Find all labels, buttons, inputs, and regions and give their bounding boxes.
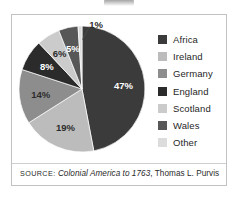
source-divider (12, 163, 226, 164)
legend-item-ireland[interactable]: Ireland (158, 48, 224, 65)
source-work-title: Colonial America to 1763 (58, 169, 150, 178)
source-author: , Thomas L. Purvis (150, 169, 219, 178)
pie-label-ireland: 19% (56, 122, 76, 133)
legend-item-scotland[interactable]: Scotland (158, 100, 224, 117)
legend-label-germany: Germany (173, 68, 213, 79)
pie-svg: 47%19%14%8%6%5%1% (16, 19, 148, 155)
source-note: SOURCE: Colonial America to 1763, Thomas… (20, 169, 226, 178)
legend-item-africa[interactable]: Africa (158, 31, 224, 48)
legend-swatch-other (158, 138, 167, 147)
legend-item-other[interactable]: Other (158, 134, 224, 151)
pie-label-england: 8% (40, 61, 54, 72)
legend-label-ireland: Ireland (173, 51, 203, 62)
legend-label-wales: Wales (173, 120, 200, 131)
pie-label-wales: 5% (66, 43, 80, 54)
legend-swatch-ireland (158, 52, 167, 61)
legend-label-other: Other (173, 137, 197, 148)
pie-label-scotland: 6% (53, 48, 67, 59)
legend-item-england[interactable]: England (158, 83, 224, 100)
legend-swatch-africa (158, 35, 167, 44)
legend-label-england: England (173, 86, 209, 97)
cropped-title-remnant (104, 0, 134, 6)
source-prefix: SOURCE: (20, 169, 56, 178)
legend-item-germany[interactable]: Germany (158, 65, 224, 82)
pie-chart: 47%19%14%8%6%5%1% (16, 19, 148, 155)
pie-label-other: 1% (89, 19, 103, 30)
legend-swatch-germany (158, 69, 167, 78)
legend-label-africa: Africa (173, 34, 198, 45)
pie-label-africa: 47% (114, 80, 134, 91)
legend-swatch-wales (158, 121, 167, 130)
pie-chart-figure: 47%19%14%8%6%5%1% Africa Ireland Germany… (0, 0, 240, 201)
legend-swatch-scotland (158, 104, 167, 113)
legend-item-wales[interactable]: Wales (158, 117, 224, 134)
legend: Africa Ireland Germany England Scotland … (158, 31, 224, 151)
pie-label-germany: 14% (31, 89, 51, 100)
legend-swatch-england (158, 87, 167, 96)
legend-label-scotland: Scotland (173, 103, 211, 114)
